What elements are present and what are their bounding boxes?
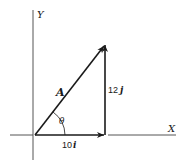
vector-a-label: A [55, 86, 65, 99]
vector-a [35, 46, 104, 135]
y-component-label: 12j [108, 85, 124, 95]
x-axis-label: X [167, 123, 176, 134]
vector-diagram: Y X A θ 10i 12j [0, 0, 184, 165]
y-axis-label: Y [37, 9, 45, 20]
x-component-label: 10i [62, 140, 77, 150]
angle-label: θ [59, 116, 65, 126]
